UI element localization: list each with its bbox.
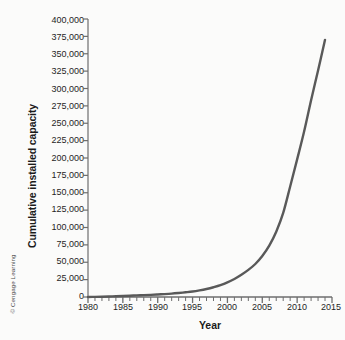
x-tick-label: 2015 — [311, 302, 345, 312]
x-tick-label: 1985 — [103, 302, 143, 312]
data-series-line — [88, 40, 325, 297]
x-tick-label: 1980 — [68, 302, 108, 312]
x-axis-title: Year — [88, 319, 332, 331]
x-axis-tick-labels: 1980 1985 1990 1995 2000 2005 2010 2015 — [0, 302, 345, 316]
x-tick-label: 2000 — [207, 302, 247, 312]
x-tick-label: 1995 — [172, 302, 212, 312]
y-axis-ticks — [83, 19, 88, 297]
x-tick-label: 2005 — [242, 302, 282, 312]
axis-lines — [88, 19, 332, 297]
chart-figure: © Cengage Learning Cumulative installed … — [0, 0, 345, 340]
plot-area — [0, 0, 345, 340]
